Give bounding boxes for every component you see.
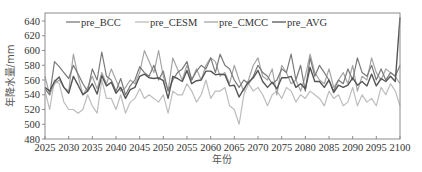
x-tick-label: 2040 [106, 142, 127, 153]
y-tick-label: 540 [24, 89, 40, 100]
y-axis: 480500520540560580600620640 [24, 16, 45, 145]
x-tick-label: 2075 [271, 142, 292, 153]
y-tick-label: 620 [24, 30, 40, 41]
y-tick-label: 580 [24, 60, 40, 71]
x-tick-label: 2050 [153, 142, 174, 153]
line-chart: 480500520540560580600620640 202520302035… [0, 0, 422, 172]
legend-label: pre_CESM [150, 17, 198, 28]
legend-item-pre-avg: pre_AVG [272, 17, 327, 28]
legend-item-pre-cesm: pre_CESM [135, 17, 198, 28]
x-tick-label: 2025 [35, 142, 56, 153]
legend-label: pre_CMCC [219, 17, 268, 28]
y-tick-label: 500 [24, 119, 40, 130]
x-tick-label: 2100 [390, 142, 411, 153]
x-tick-label: 2085 [319, 142, 340, 153]
y-axis-title: 年降水量/mm [4, 45, 16, 108]
x-tick-label: 2045 [129, 142, 150, 153]
x-axis-title: 年份 [212, 153, 232, 165]
legend-item-pre-bcc: pre_BCC [66, 17, 121, 28]
x-tick-label: 2060 [200, 142, 221, 153]
series-layer [45, 17, 400, 124]
legend: pre_BCCpre_CESMpre_CMCCpre_AVG [66, 17, 327, 28]
legend-label: pre_AVG [287, 17, 327, 28]
x-tick-label: 2095 [366, 142, 387, 153]
y-tick-label: 640 [24, 16, 40, 27]
x-tick-label: 2035 [82, 142, 103, 153]
legend-item-pre-cmcc: pre_CMCC [204, 17, 268, 28]
x-tick-label: 2080 [295, 142, 316, 153]
x-tick-label: 2090 [342, 142, 363, 153]
x-tick-label: 2065 [224, 142, 245, 153]
y-tick-label: 520 [24, 104, 40, 115]
x-tick-label: 2030 [58, 142, 79, 153]
x-tick-label: 2055 [177, 142, 198, 153]
legend-label: pre_BCC [81, 17, 121, 28]
y-tick-label: 600 [24, 45, 40, 56]
y-tick-label: 560 [24, 75, 40, 86]
x-tick-label: 2070 [248, 142, 269, 153]
